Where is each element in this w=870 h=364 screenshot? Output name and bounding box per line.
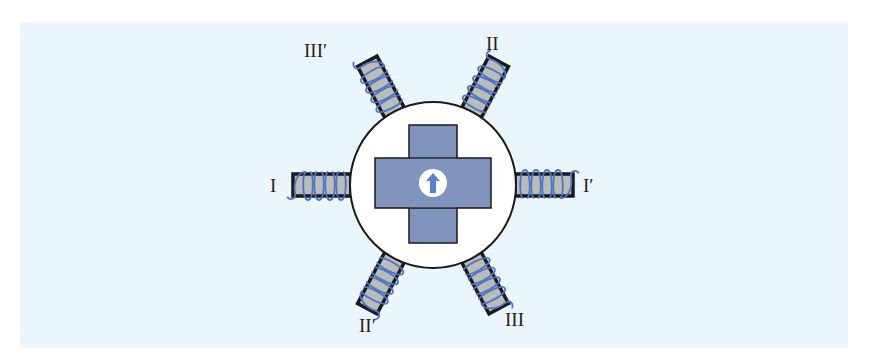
- pole-label-II-prime: II′: [359, 315, 376, 336]
- stepper-motor-diagram: I I′ II III′ II′ III: [0, 0, 870, 364]
- pole-label-I: I: [270, 175, 276, 196]
- pole-I: [287, 172, 351, 200]
- up-arrow-icon: [419, 169, 447, 197]
- pole-label-I-prime: I′: [583, 175, 593, 196]
- pole-label-III-prime: III′: [304, 40, 327, 61]
- pole-I-prime: [515, 170, 579, 198]
- pole-label-III: III: [505, 309, 524, 330]
- pole-label-II: II: [486, 33, 499, 54]
